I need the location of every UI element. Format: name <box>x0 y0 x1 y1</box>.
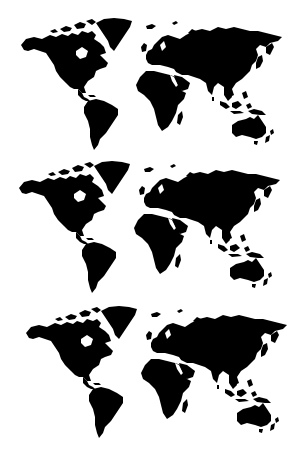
world-map-2 <box>18 160 282 294</box>
world-map-silhouette <box>25 305 289 439</box>
world-map-3 <box>25 305 289 439</box>
world-map-silhouette <box>18 160 282 294</box>
world-map-1 <box>20 17 284 151</box>
cropped-caption-text: · · · · · · · · · · · <box>0 0 92 4</box>
world-map-silhouette <box>20 17 284 151</box>
